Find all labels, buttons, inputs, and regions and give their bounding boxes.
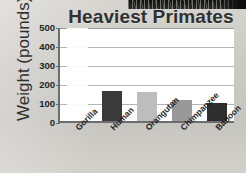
y-tick-label: 0 [30,118,55,128]
y-tick-label: 100 [30,99,55,109]
chart-page: Heaviest Primates Weight (pounds) 500400… [0,0,246,173]
y-tick-label: 500 [30,23,55,33]
y-tick-label: 200 [30,80,55,90]
x-axis-tick-labels: GorillaHumanOrangutanChimpanzeeBaboon [58,126,234,173]
bar-slot-human[interactable] [95,28,130,121]
bar-slot-orangutan[interactable] [130,28,165,121]
bar-gorilla[interactable] [67,28,89,121]
y-tick-label: 400 [30,42,55,52]
y-axis-tick-labels: 5004003002001000 [30,28,55,123]
y-tick-mark [56,123,60,124]
chart-title: Heaviest Primates [58,7,244,27]
y-tick-label: 300 [30,61,55,71]
